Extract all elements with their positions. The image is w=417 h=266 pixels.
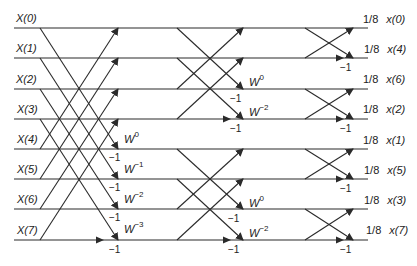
stage2-neg-0: −1 <box>230 93 241 104</box>
output-label-4: 1/8x(1) <box>363 135 405 146</box>
input-label-4: X(4) <box>17 134 38 145</box>
input-label-3: X(3) <box>17 104 38 115</box>
output-label-6: 1/8x(3) <box>364 195 406 206</box>
input-label-7: X(7) <box>17 225 38 236</box>
stage1-twiddle-0: W0 <box>124 130 139 145</box>
output-label-0: 1/8x(0) <box>363 14 405 25</box>
horizontal-signal-lines <box>14 28 368 240</box>
input-label-1: X(1) <box>16 43 37 54</box>
output-label-1: 1/8x(4) <box>364 44 406 55</box>
stage2-twiddle-1: W−2 <box>249 103 269 118</box>
arrow-head-icon <box>336 55 344 62</box>
stage1-neg-3: −1 <box>109 244 120 255</box>
input-label-2: X(2) <box>16 74 37 85</box>
stage1-twiddle-3: W−3 <box>124 220 144 235</box>
fft-butterfly-diagram: X(0) X(1) X(2) X(3) X(4) X(5) X(6) X(7) … <box>0 0 417 266</box>
output-label-5: 1/8x(5) <box>364 165 406 176</box>
stage2-neg-2: −1 <box>228 213 239 224</box>
stage2-neg-1: −1 <box>230 123 241 134</box>
butterfly-graph <box>0 0 417 266</box>
stage3-neg-2: −1 <box>340 183 351 194</box>
output-label-3: 1/8x(2) <box>363 104 405 115</box>
stage2-neg-3: −1 <box>228 244 239 255</box>
arrow-head-icon <box>336 176 344 183</box>
stage1-twiddle-2: W−2 <box>124 190 144 205</box>
arrow-head-icon <box>223 237 231 244</box>
arrow-head-icon <box>336 237 344 244</box>
output-label-7: 1/8x(7) <box>366 225 408 236</box>
stage2-twiddle-0: W0 <box>249 73 264 88</box>
output-label-2: 1/8x(6) <box>363 74 405 85</box>
stage1-neg-1: −1 <box>109 182 120 193</box>
input-label-0: X(0) <box>16 13 37 24</box>
stage3-neg-3: −1 <box>340 244 351 255</box>
arrow-head-icon <box>223 116 231 123</box>
arrow-head-icon <box>336 116 344 123</box>
stage2-twiddle-2: W0 <box>249 194 264 209</box>
butterfly-diagonals <box>40 28 353 240</box>
arrow-head-icon <box>96 237 104 244</box>
input-label-5: X(5) <box>17 164 38 175</box>
stage1-neg-0: −1 <box>109 152 120 163</box>
stage3-neg-0: −1 <box>340 62 351 73</box>
stage3-neg-1: −1 <box>340 123 351 134</box>
input-label-6: X(6) <box>17 194 38 205</box>
stage1-neg-2: −1 <box>109 212 120 223</box>
stage1-twiddle-1: W−1 <box>124 160 144 175</box>
stage2-twiddle-3: W−2 <box>249 224 269 239</box>
